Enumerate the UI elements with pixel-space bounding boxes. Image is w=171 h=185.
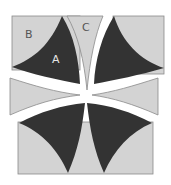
label-c: C	[82, 21, 90, 34]
bottom-block	[18, 103, 153, 174]
quilt-diagram: B A C	[0, 0, 171, 185]
label-a: A	[52, 53, 60, 66]
top-right-block	[94, 16, 164, 84]
label-b: B	[25, 28, 33, 41]
top-left-block	[12, 16, 80, 84]
